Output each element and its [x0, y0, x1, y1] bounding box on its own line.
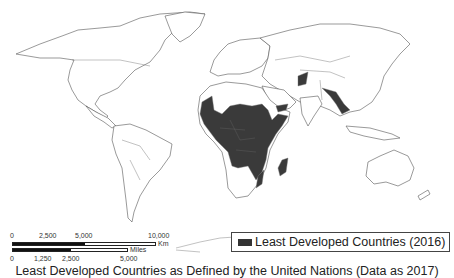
map-caption: Least Developed Countries as Defined by … [0, 264, 454, 278]
southeast-asia-islands [346, 126, 400, 140]
km-tick-1: 2,500 [39, 232, 57, 239]
map-legend: Least Developed Countries (2016) [231, 232, 450, 252]
scale-bar: 0 2,500 5,000 10,000 Km Miles 0 1,250 2,… [8, 230, 228, 266]
km-tick-2: 5,000 [75, 232, 93, 239]
km-unit: Km [158, 240, 169, 247]
australia [366, 150, 414, 186]
km-tick-0: 0 [10, 232, 14, 239]
km-tick-3: 10,000 [148, 232, 169, 239]
miles-unit: Miles [130, 246, 146, 253]
mile-tick-3: 5,000 [120, 255, 138, 262]
legend-label: Least Developed Countries (2016) [255, 235, 445, 249]
miles-bar [12, 248, 128, 252]
ldc-madagascar [278, 158, 288, 176]
new-zealand [418, 190, 430, 200]
mile-tick-0: 0 [10, 255, 14, 262]
mile-tick-2: 2,500 [62, 255, 80, 262]
central-america [86, 106, 116, 128]
legend-swatch [238, 239, 252, 246]
mile-tick-1: 1,250 [34, 255, 52, 262]
greenland [165, 12, 205, 42]
south-america [112, 124, 172, 222]
india [300, 96, 322, 126]
europe [210, 38, 270, 76]
